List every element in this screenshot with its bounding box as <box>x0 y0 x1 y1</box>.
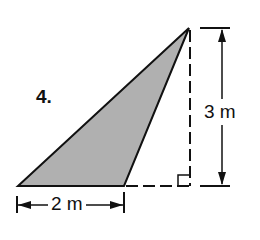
problem-number: 4. <box>36 86 52 108</box>
height-label: 3 m <box>204 99 236 125</box>
arrow-up-icon <box>218 29 226 42</box>
right-angle-marker <box>178 175 190 186</box>
arrow-left-icon <box>18 201 31 209</box>
arrow-right-icon <box>110 201 123 209</box>
arrow-down-icon <box>218 172 226 185</box>
base-label: 2 m <box>48 193 86 215</box>
